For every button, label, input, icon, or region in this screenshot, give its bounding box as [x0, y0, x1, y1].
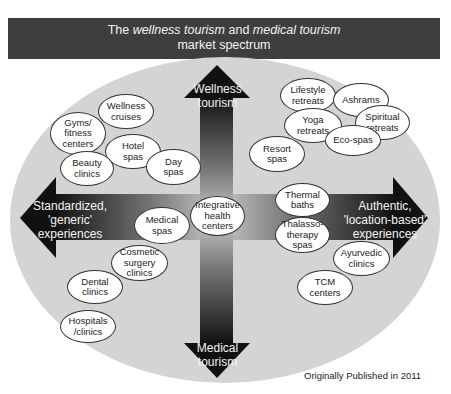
axis-label-authentic: Authentic, 'location-based' experiences	[340, 199, 430, 241]
bubble-tcm-centers: TCM centers	[297, 270, 353, 305]
bubble-day-spas: Day spas	[146, 149, 201, 185]
bubble-integrative-health-centers: Integrative health centers	[190, 196, 245, 236]
bubble-thermal-baths: Thermal baths	[275, 183, 330, 217]
publication-note: Originally Published in 2011	[304, 370, 421, 381]
bubble-beauty-clinics: Beauty clinics	[60, 151, 114, 186]
bubble-medical-spas: Medical spas	[134, 207, 190, 244]
bubble-gyms-fitness-centers: Gyms/ fitness centers	[50, 112, 106, 155]
bubble-resort-spas: Resort spas	[249, 136, 305, 172]
bubble-ayurvedic-clinics: Ayurvedic clinics	[333, 241, 390, 276]
bubble-dental-clinics: Dental clinics	[67, 270, 123, 304]
bubble-wellness-cruises: Wellness cruises	[98, 94, 154, 129]
bubble-hospitals-clinics: Hospitals /clinics	[60, 310, 116, 343]
axis-label-wellness-tourism: Wellness tourism	[190, 82, 245, 110]
axis-label-medical-tourism: Medical tourism	[190, 341, 245, 369]
bubble-thalassotherapy-spas: Thalasso- therapy spas	[275, 217, 330, 253]
bubble-eco-spas: Eco-spas	[325, 125, 381, 156]
bubble-cosmetic-surgery-clinics: Cosmetic surgery clinics	[111, 245, 168, 281]
axis-label-standardized: Standardized, 'generic' experiences	[30, 199, 110, 241]
